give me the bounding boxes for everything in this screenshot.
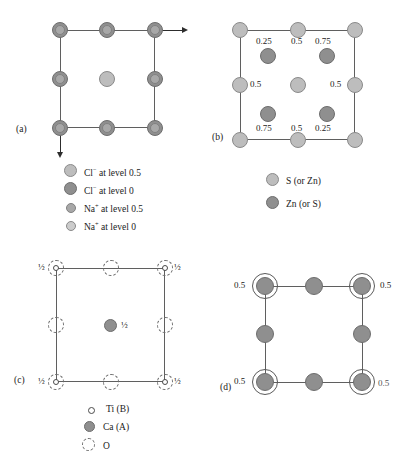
panel-b-atom-s-corner xyxy=(232,132,248,148)
zn-atom-icon xyxy=(266,195,279,213)
panel-c-fraction-bot-left: ½ xyxy=(38,377,45,386)
panel-b-atom-s-corner xyxy=(347,22,363,38)
panel-d-atom-corner xyxy=(353,373,371,391)
panel-a-legend-label: Cl− at level 0 xyxy=(84,184,134,196)
panel-a: (a) Cl− at level 0.5 Cl− at level 0 Na+ … xyxy=(0,0,202,232)
panel-a-atom-na-corner xyxy=(55,123,65,133)
panel-c-label: (c) xyxy=(14,376,25,386)
panel-b-fraction-bot-right: 0.25 xyxy=(315,124,331,133)
panel-c-atom-ca-center xyxy=(104,319,117,332)
panel-d-atom-corner xyxy=(256,373,274,391)
panel-b-atom-s-center xyxy=(290,77,306,93)
panel-d-atom-edge xyxy=(305,277,323,295)
panel-c-legend-label: O xyxy=(103,441,110,451)
panel-c-fraction-top-left: ½ xyxy=(38,263,45,272)
na-level-05-icon xyxy=(66,199,76,217)
panel-d: 0.5 0.5 0.5 0.5 (d) xyxy=(202,232,404,465)
panel-d-fraction-top-right: 0.5 xyxy=(380,281,391,290)
panel-a-label: (a) xyxy=(16,125,27,135)
panel-a-legend-label: Na+ at level 0.5 xyxy=(84,202,143,214)
panel-a-legend-item-cl-0: Cl− at level 0 xyxy=(64,181,134,199)
panel-a-legend-label: Cl− at level 0.5 xyxy=(84,166,141,178)
panel-b-legend-item-zn: Zn (or S) xyxy=(266,195,321,213)
ti-atom-icon xyxy=(88,400,95,418)
panel-c: ½ ½ ½ ½ ½ (c) Ti (B) Ca (A) O xyxy=(0,232,202,465)
panel-b-atom-s-edge xyxy=(347,77,363,93)
panel-c-legend-item-ti: Ti (B) xyxy=(88,400,129,418)
panel-c-atom-o-edge xyxy=(157,317,173,333)
panel-a-axis-arrow-down-head xyxy=(57,152,63,158)
panel-b-fraction-bot-mid: 0.5 xyxy=(291,124,302,133)
panel-c-atom-ti-corner xyxy=(53,265,59,271)
panel-c-fraction-top-right: ½ xyxy=(174,263,181,272)
panel-d-atom-edge xyxy=(353,325,371,343)
panel-a-atom-na-corner xyxy=(150,123,160,133)
ca-atom-icon xyxy=(84,418,95,436)
cl-level-0-icon xyxy=(64,181,77,199)
panel-b-fraction-mid-left: 0.5 xyxy=(250,80,261,89)
panel-d-atom-edge xyxy=(256,325,274,343)
panel-c-atom-o-edge xyxy=(48,317,64,333)
panel-d-fraction-top-left: 0.5 xyxy=(234,281,245,290)
panel-c-atom-o-edge xyxy=(103,260,119,276)
panel-b-atom-zn xyxy=(319,48,335,64)
panel-b-fraction-top-right: 0.75 xyxy=(315,37,331,46)
panel-b: 0.25 0.5 0.75 0.5 0.5 0.75 0.5 0.25 (b) … xyxy=(202,0,404,232)
panel-a-atom-na-edge xyxy=(150,74,160,84)
panel-b-legend-item-s: S (or Zn) xyxy=(266,172,321,190)
panel-b-atom-zn xyxy=(319,106,335,122)
panel-b-fraction-top-left: 0.25 xyxy=(256,37,272,46)
panel-a-legend-label: Na+ at level 0 xyxy=(84,220,136,232)
panel-a-atom-na-edge xyxy=(55,74,65,84)
panel-b-atom-s-corner xyxy=(347,132,363,148)
panel-c-legend-item-o: O xyxy=(82,437,110,455)
panel-a-atom-na-corner xyxy=(150,25,160,35)
panel-c-legend-item-ca: Ca (A) xyxy=(84,418,129,436)
panel-b-fraction-bot-left: 0.75 xyxy=(256,124,272,133)
panel-a-legend-item-na-05: Na+ at level 0.5 xyxy=(66,199,143,217)
panel-b-atom-s-corner xyxy=(232,22,248,38)
panel-d-fraction-bot-left: 0.5 xyxy=(234,377,245,386)
cl-level-05-icon xyxy=(64,163,77,181)
panel-b-atom-s-edge xyxy=(290,132,306,148)
panel-b-fraction-mid-right: 0.5 xyxy=(330,80,341,89)
panel-b-atom-s-edge xyxy=(232,77,248,93)
panel-c-atom-o-edge xyxy=(103,374,119,390)
panel-b-legend-label: Zn (or S) xyxy=(286,199,321,209)
panel-d-atom-corner xyxy=(353,277,371,295)
panel-c-fraction-center: ½ xyxy=(121,321,128,330)
panel-b-fraction-top-mid: 0.5 xyxy=(291,37,302,46)
panel-a-atom-na-edge xyxy=(102,123,112,133)
o-atom-icon xyxy=(82,437,95,455)
panel-a-atom-na-edge xyxy=(102,25,112,35)
s-atom-icon xyxy=(266,172,279,190)
panel-a-atom-cl-center xyxy=(99,71,115,87)
panel-a-atom-na-corner xyxy=(55,25,65,35)
panel-a-legend-item-cl-05: Cl− at level 0.5 xyxy=(64,163,141,181)
panel-c-fraction-bot-right: ½ xyxy=(174,377,181,386)
panel-d-atom-corner xyxy=(256,277,274,295)
panel-d-fraction-bot-right: 0.5 xyxy=(378,379,389,388)
panel-a-axis-arrow-right-head xyxy=(182,27,188,33)
panel-c-atom-ti-corner xyxy=(162,379,168,385)
panel-b-legend-label: S (or Zn) xyxy=(286,176,321,186)
panel-b-atom-zn xyxy=(260,48,276,64)
panel-d-label: (d) xyxy=(220,383,231,393)
panel-b-label: (b) xyxy=(212,133,223,143)
panel-c-atom-ti-corner xyxy=(53,379,59,385)
panel-d-atom-edge xyxy=(305,373,323,391)
panel-b-atom-zn xyxy=(260,106,276,122)
panel-c-atom-ti-corner xyxy=(162,265,168,271)
panel-c-legend-label: Ca (A) xyxy=(103,422,129,432)
panel-c-legend-label: Ti (B) xyxy=(106,404,129,414)
